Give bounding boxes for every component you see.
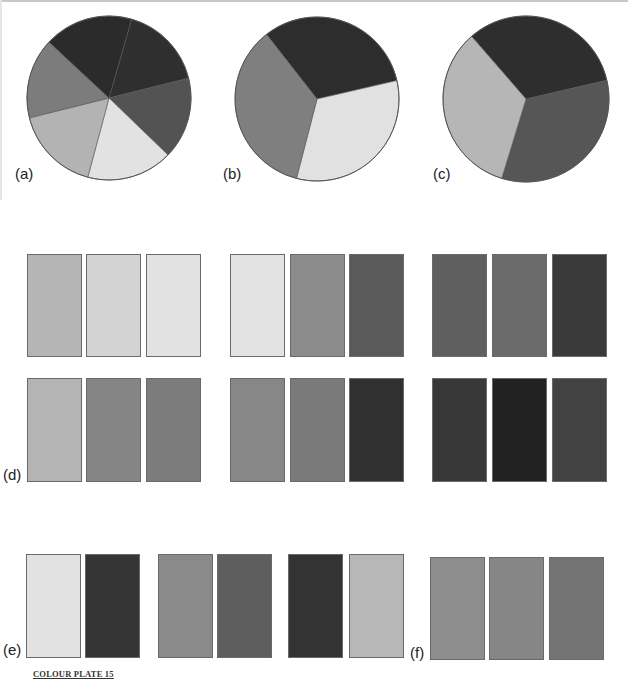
label-a: (a)	[15, 166, 33, 181]
pie-b	[235, 17, 399, 181]
swatch-f	[489, 557, 544, 660]
swatch-d	[552, 378, 607, 482]
swatch-f	[549, 557, 604, 660]
swatch-d	[432, 254, 487, 357]
swatch-e	[158, 554, 213, 658]
swatch-d	[27, 378, 82, 482]
swatch-d	[86, 254, 141, 357]
swatch-d	[230, 378, 285, 482]
swatch-d	[146, 378, 201, 482]
label-f: (f)	[410, 645, 424, 660]
swatch-d	[349, 378, 404, 482]
pie-c	[443, 16, 609, 182]
swatch-e	[349, 554, 404, 658]
swatch-d	[432, 378, 487, 482]
label-e: (e)	[3, 642, 21, 657]
swatch-d	[230, 254, 285, 357]
swatch-d	[290, 378, 345, 482]
label-c: (c)	[433, 166, 451, 181]
label-b: (b)	[223, 166, 241, 181]
swatch-d	[290, 254, 345, 357]
swatch-e	[288, 554, 343, 658]
swatch-d	[492, 378, 547, 482]
swatch-e	[217, 554, 272, 658]
swatch-d	[86, 378, 141, 482]
swatch-e	[85, 554, 140, 658]
pie-a	[27, 16, 191, 180]
swatch-d	[492, 254, 547, 357]
swatch-e	[26, 554, 81, 658]
swatch-f	[430, 557, 485, 660]
swatch-d	[146, 254, 201, 357]
label-d: (d)	[3, 467, 21, 482]
swatch-d	[552, 254, 607, 357]
swatch-d	[27, 254, 82, 357]
swatch-d	[349, 254, 404, 357]
plate-caption: COLOUR PLATE 15	[33, 669, 114, 679]
